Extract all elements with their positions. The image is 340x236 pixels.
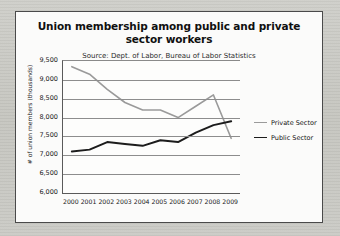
legend-line-swatch <box>254 137 267 138</box>
chart-card: Union membership among public and privat… <box>15 11 323 223</box>
x-axis-tick-label: 2002 <box>98 198 114 205</box>
page-title: Union membership among public and privat… <box>36 20 302 45</box>
x-axis-tick-label: 2006 <box>169 198 185 205</box>
y-axis-tick-label: 6,000 <box>24 188 58 196</box>
y-axis-tick-label: 6,500 <box>24 169 58 177</box>
x-axis-tick-label: 2001 <box>81 198 97 205</box>
legend-item[interactable]: Private Sector <box>254 118 323 127</box>
x-axis-tick-label: 2000 <box>63 198 79 205</box>
y-axis-tick-label: 8,000 <box>24 113 58 121</box>
plot-area <box>62 60 240 194</box>
legend-line-swatch <box>254 122 267 123</box>
x-axis-tick-label: 2008 <box>205 198 221 205</box>
gridline <box>63 174 240 175</box>
x-axis-tick-label: 2003 <box>116 198 132 205</box>
y-axis-tick-label: 7,500 <box>24 131 58 139</box>
legend-label: Public Sector <box>271 134 313 142</box>
chart-legend: Private SectorPublic Sector <box>254 118 323 148</box>
gridline <box>63 118 240 119</box>
y-axis-tick-label: 9,500 <box>24 56 58 64</box>
y-axis-tick-label: 9,000 <box>24 75 58 83</box>
x-axis-tick-label: 2009 <box>222 198 238 205</box>
x-axis-tick-label: 2005 <box>151 198 167 205</box>
gridline <box>63 80 240 81</box>
x-axis-tick-label: 2004 <box>134 198 150 205</box>
plot-area-wrapper: # of union members (thousands) 6,0006,50… <box>16 58 323 223</box>
y-axis-tick-label: 8,500 <box>24 94 58 102</box>
gridline <box>63 136 240 137</box>
y-axis-ticks: 6,0006,5007,0007,5008,0008,5009,0009,500 <box>24 58 58 223</box>
x-axis-tick-label: 2007 <box>187 198 203 205</box>
legend-label: Private Sector <box>271 119 317 127</box>
gridline <box>63 99 240 100</box>
gridline <box>63 155 240 156</box>
legend-item[interactable]: Public Sector <box>254 133 323 142</box>
y-axis-tick-label: 7,000 <box>24 150 58 158</box>
x-axis-ticks: 2000200120022003200420052006200720082009 <box>62 198 239 210</box>
